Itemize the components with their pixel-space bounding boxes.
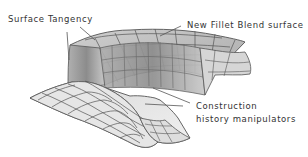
front-surface: [30, 81, 190, 147]
fillet-blend-diagram: Surface Tangency New Fillet Blend surfac…: [0, 0, 308, 157]
new-fillet-blend-label: New Fillet Blend surface: [187, 19, 304, 31]
right-surface-flap: [200, 48, 251, 95]
construction-label-line1: Construction: [196, 100, 257, 112]
surface-tangency-label: Surface Tangency: [8, 13, 93, 25]
tangency-leader-1: [67, 32, 69, 60]
construction-label-line2: history manipulators: [196, 113, 296, 125]
